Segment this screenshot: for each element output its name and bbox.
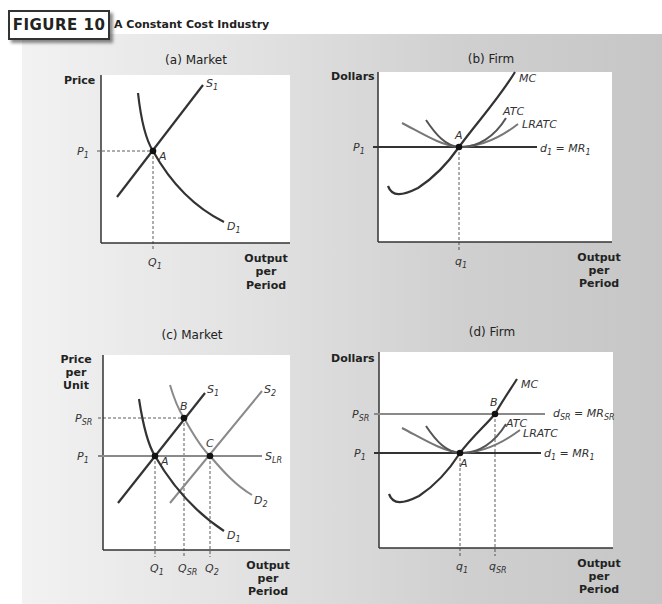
plot-area-a: [101, 75, 290, 243]
point-b-label-d: B: [490, 396, 498, 409]
svg-text:Output: Output: [577, 557, 620, 570]
plot-area-c: [103, 355, 290, 550]
svg-text:Period: Period: [248, 585, 288, 596]
chart-a-title: (a) Market: [165, 53, 227, 67]
tick-psr-d: PSR: [352, 408, 369, 423]
mc-label-d: MC: [521, 378, 538, 391]
mc-label-b: MC: [519, 72, 536, 85]
tick-q2-c: Q2: [205, 562, 219, 577]
point-a: [150, 148, 157, 155]
point-a-label-b: A: [454, 129, 463, 142]
svg-text:Period: Period: [579, 277, 619, 290]
tick-q1-c: Q1: [150, 562, 164, 577]
svg-text:Output: Output: [246, 559, 289, 572]
svg-text:Period: Period: [246, 279, 286, 292]
plot-area-b: [378, 72, 612, 242]
point-a-d: [457, 450, 464, 457]
chart-d-title: (d) Firm: [469, 325, 516, 339]
tick-p1-a: P1: [77, 145, 89, 160]
y-axis-label-a: Price: [64, 74, 95, 87]
tick-q1-a: Q1: [148, 256, 162, 271]
tick-p1-c: P1: [77, 450, 89, 465]
atc-label-b: ATC: [502, 105, 524, 118]
point-a-label-c: A: [160, 455, 169, 468]
x-axis-label-b: Output per Period: [577, 251, 620, 290]
lratc-label-b: LRATC: [522, 118, 557, 131]
tick-qsr-d: qSR: [489, 560, 507, 575]
tick-qsr-c: QSR: [178, 562, 197, 577]
y-axis-label-d: Dollars: [331, 352, 375, 365]
svg-text:per: per: [589, 264, 610, 277]
svg-text:per: per: [258, 572, 279, 585]
y-axis-label-b: Dollars: [331, 70, 375, 83]
x-axis-label-d: Output per Period: [577, 557, 620, 596]
point-c-c: [207, 453, 214, 460]
figure-number-label: FIGURE 10: [8, 10, 110, 40]
chart-d-firm: (d) Firm Dollars Output per Period A B M…: [331, 325, 621, 596]
point-b-label-c: B: [180, 400, 188, 413]
svg-text:per: per: [66, 366, 87, 379]
tick-q1-d: q1: [456, 560, 468, 575]
chart-b-title: (b) Firm: [468, 52, 515, 66]
point-a-c: [152, 453, 159, 460]
tick-p1-b: P1: [353, 141, 365, 156]
chart-c-market: (c) Market Price per Unit Output per Per…: [60, 328, 290, 596]
point-a-label: A: [158, 150, 167, 163]
svg-text:Output: Output: [577, 251, 620, 264]
point-b-c: [181, 415, 188, 422]
x-axis-label-c: Output per Period: [246, 559, 289, 596]
tick-psr-c: PSR: [75, 412, 92, 427]
chart-c-title: (c) Market: [161, 328, 222, 342]
svg-text:per: per: [256, 265, 277, 278]
svg-text:Unit: Unit: [63, 379, 89, 392]
point-c-label-c: C: [206, 437, 214, 450]
point-a-b: [456, 144, 463, 151]
chart-b-firm: (b) Firm Dollars Output per Period A MC …: [331, 52, 621, 290]
svg-text:Period: Period: [579, 583, 619, 596]
tick-p1-d: P1: [354, 447, 366, 462]
lratc-label-d: LRATC: [523, 427, 558, 440]
figure-title: A Constant Cost Industry: [114, 18, 269, 31]
svg-text:per: per: [589, 570, 610, 583]
point-a-label-d: A: [459, 457, 468, 470]
y-axis-label-c: Price per Unit: [60, 353, 91, 392]
tick-q1-b: q1: [455, 255, 467, 270]
x-axis-label-a: Output per Period: [244, 252, 287, 292]
chart-a-market: (a) Market Price Output per Period A S1 …: [64, 53, 290, 292]
svg-text:Price: Price: [60, 353, 91, 366]
point-b-d: [492, 411, 499, 418]
svg-text:Output: Output: [244, 252, 287, 265]
